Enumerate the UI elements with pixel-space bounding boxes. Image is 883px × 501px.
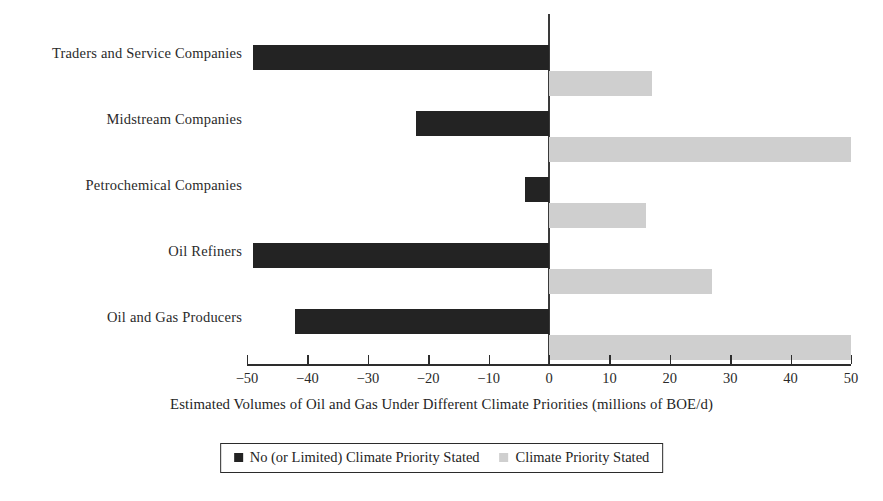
x-tick-label: 10 (602, 370, 617, 387)
bar-positive (549, 137, 851, 162)
x-tick-label: 50 (844, 370, 859, 387)
bar-negative (253, 45, 549, 70)
x-tick-label: 40 (783, 370, 798, 387)
x-tick-label: 0 (545, 370, 552, 387)
x-tick (549, 355, 550, 364)
legend-swatch-light-icon (500, 453, 509, 462)
category-label-oil-and-gas-producers: Oil and Gas Producers (0, 309, 242, 326)
category-label-petrochemical-companies: Petrochemical Companies (0, 177, 242, 194)
bar-negative (416, 111, 549, 136)
x-tick (368, 355, 369, 364)
category-label-oil-refiners: Oil Refiners (0, 243, 242, 260)
x-tick (307, 355, 308, 364)
x-tick-label: 20 (663, 370, 678, 387)
bar-chart: Traders and Service Companies Midstream … (0, 0, 883, 501)
bar-negative (295, 309, 549, 334)
x-tick (851, 355, 852, 364)
x-tick (489, 355, 490, 364)
x-tick (428, 355, 429, 364)
x-tick-label: −10 (477, 370, 500, 387)
category-label-midstream-companies: Midstream Companies (0, 111, 242, 128)
plot-area (247, 12, 851, 364)
legend-label-no-climate-priority: No (or Limited) Climate Priority Stated (250, 449, 480, 466)
bar-positive (549, 269, 712, 294)
x-axis-title: Estimated Volumes of Oil and Gas Under D… (0, 396, 883, 413)
legend-item-no-climate-priority: No (or Limited) Climate Priority Stated (234, 449, 480, 466)
x-axis-ticks: −50−40−30−20−1001020304050 (247, 356, 851, 396)
x-tick-label: −20 (417, 370, 440, 387)
legend-label-climate-priority: Climate Priority Stated (516, 449, 650, 466)
x-tick (730, 355, 731, 364)
bar-negative (253, 243, 549, 268)
category-axis-labels: Traders and Service Companies Midstream … (0, 0, 250, 360)
legend: No (or Limited) Climate Priority Stated … (220, 443, 664, 473)
bar-positive (549, 71, 652, 96)
x-tick (609, 355, 610, 364)
x-tick-label: 30 (723, 370, 738, 387)
x-tick (247, 355, 248, 364)
x-tick (791, 355, 792, 364)
x-tick (670, 355, 671, 364)
bar-positive (549, 203, 646, 228)
x-tick-label: −40 (296, 370, 319, 387)
legend-item-climate-priority: Climate Priority Stated (500, 449, 650, 466)
x-tick-label: −30 (356, 370, 379, 387)
category-label-traders-and-service-companies: Traders and Service Companies (0, 45, 242, 62)
bar-negative (525, 177, 549, 202)
legend-swatch-dark-icon (234, 453, 243, 462)
x-tick-label: −50 (236, 370, 259, 387)
